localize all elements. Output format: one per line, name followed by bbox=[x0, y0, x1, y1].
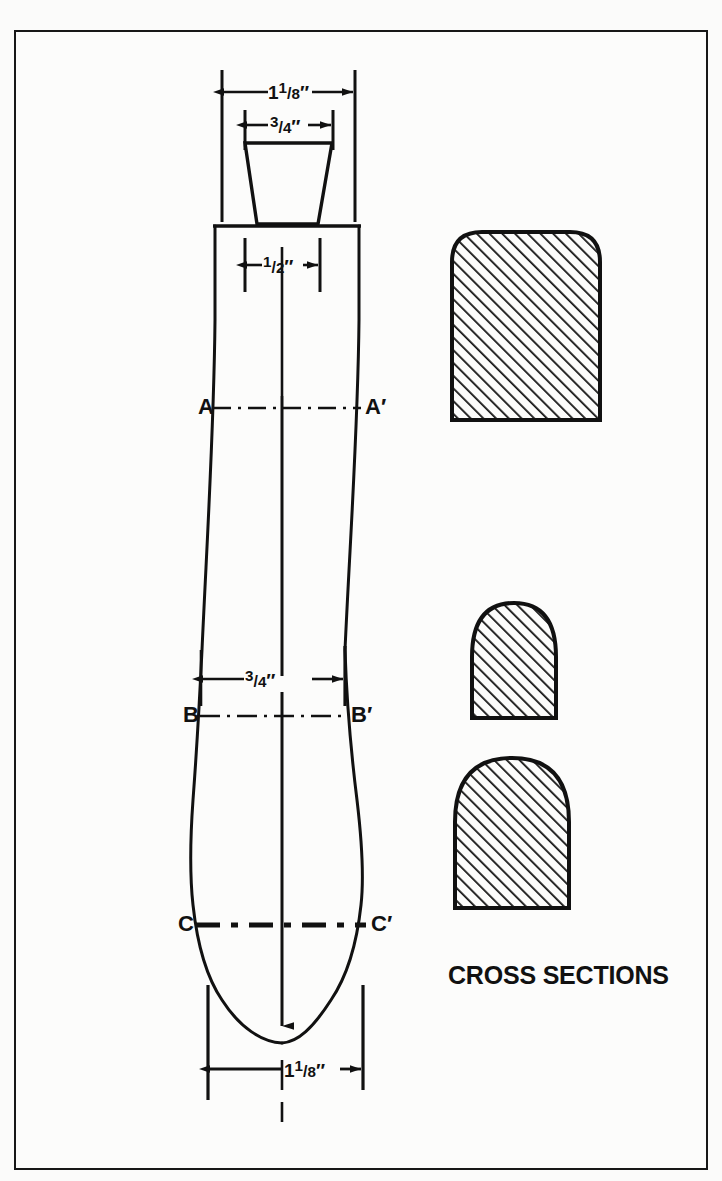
section-label-a-right: A′ bbox=[365, 396, 386, 418]
dimension-label-handle-width: 1/2″ bbox=[263, 254, 292, 276]
section-label-b-right: B′ bbox=[351, 704, 372, 726]
dimension-label-barrel-width: 11/8″ bbox=[284, 1058, 324, 1080]
section-label-c-left: C bbox=[178, 913, 194, 935]
cross-section-b bbox=[472, 603, 556, 718]
dimension-label-mid-width: 3/4″ bbox=[245, 668, 274, 690]
dimension-label-knob-top-width: 3/4″ bbox=[270, 114, 299, 136]
knob-outline bbox=[245, 143, 332, 224]
figure-page: 11/8″ 3/4″ 1/2″ 3/4″ 11/8″ A A′ B B′ C C… bbox=[0, 0, 722, 1181]
cross-sections-caption: CROSS SECTIONS bbox=[448, 963, 669, 988]
cross-section-a bbox=[452, 232, 600, 420]
dimension-label-knob-outer-width: 11/8″ bbox=[268, 80, 308, 102]
section-label-c-right: C′ bbox=[371, 913, 392, 935]
technical-drawing bbox=[0, 0, 722, 1181]
cross-section-c bbox=[455, 758, 569, 908]
section-label-a-left: A bbox=[198, 396, 214, 418]
body-outline bbox=[191, 226, 363, 1043]
section-label-b-left: B bbox=[183, 704, 199, 726]
